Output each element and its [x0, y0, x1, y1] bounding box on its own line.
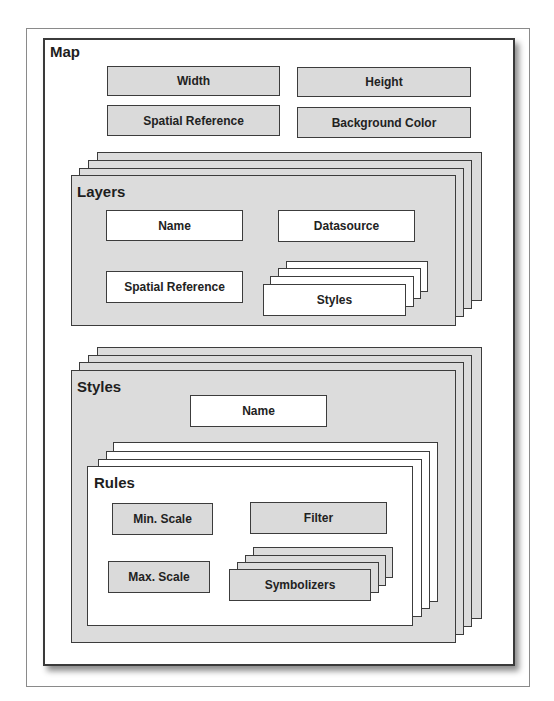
rule-max-scale-box: Max. Scale: [108, 561, 210, 593]
map-height-label: Height: [365, 75, 402, 89]
rule-max-scale-label: Max. Scale: [128, 570, 189, 584]
rule-filter-label: Filter: [304, 511, 333, 525]
layer-datasource-label: Datasource: [314, 219, 379, 233]
layer-styles-box: Styles: [263, 284, 406, 316]
rule-min-scale-label: Min. Scale: [133, 512, 192, 526]
map-background-color-box: Background Color: [297, 107, 471, 138]
layer-name-label: Name: [158, 219, 191, 233]
rules-container: [87, 466, 413, 626]
map-height-box: Height: [297, 67, 471, 97]
style-name-label: Name: [242, 404, 275, 418]
rules-title: Rules: [94, 474, 135, 491]
map-background-color-label: Background Color: [332, 116, 437, 130]
rule-filter-box: Filter: [250, 502, 387, 534]
symbolizers-box: Symbolizers: [229, 569, 371, 601]
layer-datasource-box: Datasource: [278, 210, 415, 242]
layer-spatial-reference-box: Spatial Reference: [106, 271, 243, 303]
layer-name-box: Name: [106, 210, 243, 241]
rule-min-scale-box: Min. Scale: [112, 503, 213, 535]
styles-title: Styles: [77, 378, 121, 395]
style-name-box: Name: [190, 395, 327, 427]
map-spatial-reference-label: Spatial Reference: [143, 114, 244, 128]
map-width-label: Width: [177, 74, 210, 88]
map-title: Map: [50, 43, 80, 60]
symbolizers-label: Symbolizers: [265, 578, 336, 592]
layer-styles-label: Styles: [317, 293, 352, 307]
layer-spatial-reference-label: Spatial Reference: [124, 280, 225, 294]
layers-title: Layers: [77, 183, 125, 200]
map-spatial-reference-box: Spatial Reference: [107, 105, 280, 136]
map-width-box: Width: [107, 66, 280, 96]
